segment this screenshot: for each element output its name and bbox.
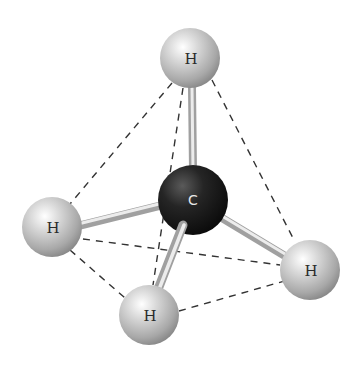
hydrogen-atom-left: H bbox=[22, 197, 82, 257]
hydrogen-label-bottom: H bbox=[143, 307, 156, 325]
edge-left-bottom bbox=[70, 250, 125, 298]
hydrogen-label-right: H bbox=[304, 262, 317, 280]
methane-diagram: C H H H H bbox=[0, 0, 345, 366]
hydrogen-atom-right: H bbox=[280, 240, 340, 300]
carbon-label: C bbox=[188, 192, 198, 208]
hydrogen-label-top: H bbox=[184, 50, 197, 68]
bond-c-left bbox=[78, 205, 163, 226]
edge-left-right bbox=[83, 239, 280, 265]
edge-top-left bbox=[70, 83, 172, 204]
hydrogen-label-left: H bbox=[46, 219, 59, 237]
hydrogen-atom-top: H bbox=[160, 28, 220, 88]
carbon-atom: C bbox=[158, 165, 228, 235]
bond-c-right bbox=[222, 218, 290, 259]
edge-bottom-right bbox=[179, 280, 288, 311]
hydrogen-atom-bottom: H bbox=[119, 285, 179, 345]
